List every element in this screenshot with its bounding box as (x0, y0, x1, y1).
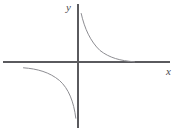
plot-canvas (0, 0, 176, 134)
hyperbola-figure: y x (0, 0, 176, 134)
x-axis-label: x (166, 66, 171, 77)
y-axis-label: y (66, 2, 71, 13)
figure-background (0, 0, 176, 134)
